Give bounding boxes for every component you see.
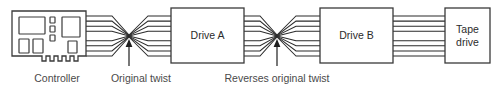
cable-segment-drive-b-to-tape-drive	[393, 16, 445, 56]
reverses-original-twist-caption: Reverses original twist	[224, 72, 329, 84]
controller-chip-small-middle	[50, 26, 55, 32]
controller-chip-tall-mid	[33, 39, 43, 53]
diagram-canvas: Drive A Drive B Tape drive Controller Or…	[0, 0, 494, 94]
tape-drive-box[interactable]: Tape drive	[445, 8, 490, 63]
cable-segment-drive-a-to-twist2	[244, 16, 277, 56]
tape-drive-label-line1: Tape	[456, 23, 479, 35]
controller-card[interactable]	[12, 11, 86, 61]
original-twist-caption: Original twist	[111, 72, 171, 84]
controller-caption: Controller	[34, 72, 80, 84]
controller-chip-large-left	[19, 17, 45, 34]
controller-chip-tall-right	[68, 41, 77, 53]
tape-drive-label-line2: drive	[456, 36, 479, 48]
controller-chip-small-top	[50, 17, 55, 23]
controller-chip-large-right	[62, 17, 80, 37]
cable-segment-controller-to-twist1	[86, 16, 129, 56]
controller-chip-tall-left	[19, 39, 29, 53]
drive-a-box[interactable]: Drive A	[171, 8, 244, 63]
drive-b-label: Drive B	[339, 29, 373, 41]
drive-a-label: Drive A	[191, 29, 225, 41]
cable-segment-twist2-to-drive-b	[277, 16, 320, 56]
ribbon-cable-twist-diagram: Drive A Drive B Tape drive Controller Or…	[0, 0, 494, 94]
original-twist-arrow	[126, 39, 133, 66]
controller-chip-small-bottom	[50, 35, 55, 41]
reverses-twist-arrow	[274, 39, 281, 66]
cable-segment-twist1-to-drive-a	[129, 16, 171, 56]
drive-b-box[interactable]: Drive B	[320, 8, 393, 63]
